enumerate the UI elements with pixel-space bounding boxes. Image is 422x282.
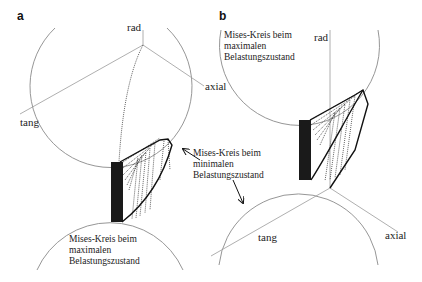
rad-label-b: rad — [314, 31, 329, 43]
panel-letter-b: b — [219, 9, 226, 23]
annotation-max-circle-a: Mises-Kreis beim maximalen Belastungszus… — [69, 234, 140, 266]
annotation-min-circle: Mises-Kreis beim minimalen Belastungszus… — [193, 148, 264, 180]
axial-axis-a — [143, 45, 204, 86]
stress-path-upper-a — [119, 45, 143, 162]
stress-path-boundary-a — [120, 139, 172, 222]
panel-b: b rad tang axial Mises-Kreis beim maxima… — [211, 9, 406, 265]
svg-text:Belastungszustand: Belastungszustand — [224, 52, 295, 62]
annotation-max-circle-b: Mises-Kreis beim maximalen Belastungszus… — [224, 30, 295, 62]
axial-axis-b — [330, 188, 398, 232]
panel-letter-a: a — [17, 9, 24, 23]
tang-axis-a — [20, 45, 143, 114]
mises-circle-min-a — [30, 28, 192, 168]
diagram-canvas: a rad tang axial Mises — [0, 0, 422, 282]
svg-text:minimalen: minimalen — [193, 159, 234, 169]
svg-text:Mises-Kreis beim: Mises-Kreis beim — [193, 148, 261, 158]
axial-label-a: axial — [205, 80, 226, 92]
rad-label-a: rad — [127, 21, 142, 33]
tang-axis-b — [211, 188, 330, 256]
svg-text:Belastungszustand: Belastungszustand — [69, 256, 140, 266]
tang-label-a: tang — [20, 116, 39, 128]
axial-label-b: axial — [385, 229, 406, 241]
stress-path-boundary-b — [310, 90, 368, 188]
stress-path-hatch-b — [299, 90, 363, 181]
arrow-to-lower-circle-b — [233, 180, 243, 203]
mises-circle-min-b — [219, 194, 378, 265]
svg-text:Belastungszustand: Belastungszustand — [193, 170, 264, 180]
stress-path-inner-b — [311, 90, 363, 180]
svg-text:maximalen: maximalen — [224, 41, 266, 51]
svg-text:maximalen: maximalen — [69, 245, 111, 255]
svg-text:Mises-Kreis beim: Mises-Kreis beim — [69, 234, 137, 244]
svg-text:Mises-Kreis beim: Mises-Kreis beim — [224, 30, 292, 40]
tang-label-b: tang — [258, 231, 277, 243]
